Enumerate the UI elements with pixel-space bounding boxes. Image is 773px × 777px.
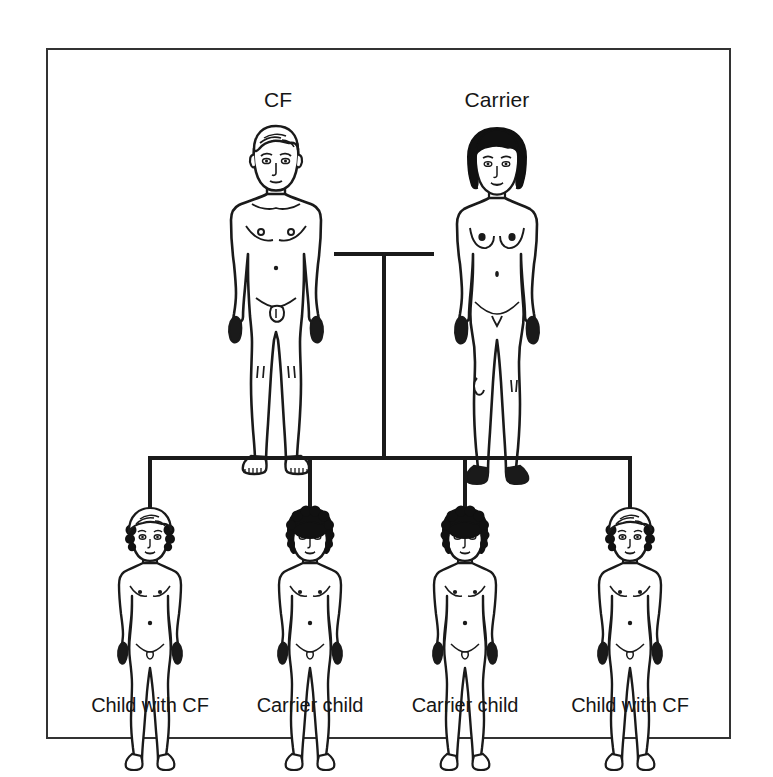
pedigree-diagram: CF Carrier Child with CF Carrier child C…: [0, 0, 773, 777]
parent-label-father: CF: [264, 88, 292, 112]
child-label-3: Carrier child: [412, 694, 519, 717]
child-figure-2: [278, 506, 342, 771]
pedigree-canvas: [0, 0, 773, 777]
child-figure-1: [118, 508, 182, 770]
pedigree-connectors: [148, 254, 632, 508]
child-label-1: Child with CF: [91, 694, 209, 717]
parent-figure-mother: [455, 128, 539, 484]
child-label-4: Child with CF: [571, 694, 689, 717]
child-label-2: Carrier child: [257, 694, 364, 717]
parent-figure-father: [229, 126, 323, 474]
child-figure-3: [433, 506, 497, 771]
parent-label-mother: Carrier: [465, 88, 530, 112]
child-figure-4: [598, 508, 662, 770]
